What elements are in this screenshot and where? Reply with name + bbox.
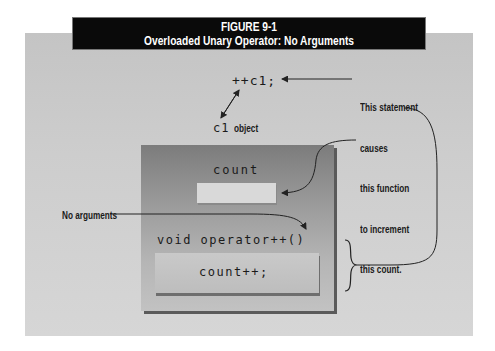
- no-arguments-arrow: [110, 214, 306, 229]
- count-arrow: [282, 140, 356, 193]
- object-arrow-reverse: [221, 90, 239, 118]
- connector-arrows: [0, 0, 495, 351]
- brace-icon: [345, 240, 357, 291]
- function-connector: [357, 108, 437, 265]
